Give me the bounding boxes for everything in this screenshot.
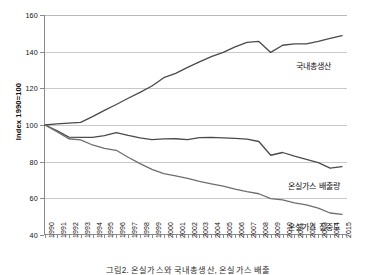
series-line xyxy=(45,125,342,168)
series-label-3: 온실가스 집중도 xyxy=(288,221,340,232)
series-line xyxy=(45,36,342,125)
figure-caption: 그림2. 온실가스와 국내총생산, 온실가스 배출 xyxy=(0,263,376,275)
series-label-2: 온실가스 배출량 xyxy=(288,180,340,191)
series-label-1: 국내총생산 xyxy=(296,60,332,71)
